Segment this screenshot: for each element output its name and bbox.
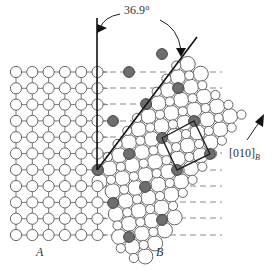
atom-b bbox=[211, 90, 220, 99]
atom-a bbox=[43, 132, 54, 143]
atom-b-large bbox=[196, 89, 211, 104]
atom-a bbox=[92, 197, 103, 208]
atom-a bbox=[10, 181, 21, 192]
atom-b bbox=[181, 130, 190, 139]
atom-b bbox=[185, 71, 194, 80]
atom-a bbox=[76, 213, 87, 224]
atom-a bbox=[43, 181, 54, 192]
atom-a bbox=[43, 164, 54, 175]
atom-a bbox=[27, 197, 38, 208]
coincidence-atom bbox=[157, 49, 168, 60]
atom-b-large bbox=[134, 226, 149, 241]
coincidence-atom bbox=[140, 182, 151, 193]
atom-b bbox=[188, 175, 197, 184]
coincidence-atom bbox=[124, 149, 135, 160]
direction-text: [010] bbox=[229, 146, 255, 160]
coincidence-atom bbox=[124, 232, 135, 243]
lattice-drawing bbox=[0, 0, 275, 273]
atom-b-large bbox=[164, 105, 179, 120]
atom-b bbox=[168, 201, 177, 210]
atom-b-large bbox=[222, 109, 237, 124]
atom-b bbox=[224, 100, 233, 109]
coincidence-atom bbox=[157, 215, 168, 226]
atom-b-large bbox=[183, 79, 198, 94]
atom-b bbox=[129, 253, 138, 262]
angle-label: 36.9° bbox=[124, 3, 150, 18]
atom-a bbox=[76, 99, 87, 110]
atom-b bbox=[146, 205, 155, 214]
atom-a bbox=[92, 213, 103, 224]
atom-a bbox=[10, 213, 21, 224]
atom-b bbox=[165, 178, 174, 187]
atom-b-large bbox=[180, 138, 195, 153]
atom-b bbox=[217, 136, 226, 145]
atom-b bbox=[227, 123, 236, 132]
atom-b-large bbox=[170, 151, 185, 166]
atom-b bbox=[149, 146, 158, 155]
atom-a bbox=[76, 115, 87, 126]
atom-b-large bbox=[115, 171, 130, 186]
atom-b bbox=[172, 143, 181, 152]
atom-a bbox=[59, 99, 70, 110]
atom-a bbox=[59, 164, 70, 175]
atom-b-large bbox=[118, 193, 133, 208]
atom-b-large bbox=[187, 102, 202, 117]
direction-subscript: B bbox=[255, 153, 260, 162]
atom-b bbox=[237, 110, 246, 119]
atom-a bbox=[92, 181, 103, 192]
atom-b bbox=[178, 188, 187, 197]
atom-b-large bbox=[125, 158, 140, 173]
atom-b bbox=[106, 175, 115, 184]
atom-a bbox=[59, 213, 70, 224]
atom-a bbox=[59, 66, 70, 77]
atom-b bbox=[136, 218, 145, 227]
atom-b-large bbox=[151, 96, 166, 111]
atom-b bbox=[133, 195, 142, 204]
atom-b bbox=[165, 97, 174, 106]
atom-b bbox=[168, 120, 177, 129]
atom-a bbox=[76, 132, 87, 143]
atom-b-large bbox=[174, 174, 189, 189]
atom-b-large bbox=[141, 109, 156, 124]
atom-b-large bbox=[138, 167, 153, 182]
atom-b-large bbox=[131, 203, 146, 218]
atom-b bbox=[201, 103, 210, 112]
coincidence-atom bbox=[108, 116, 119, 127]
atom-a bbox=[43, 213, 54, 224]
direction-arrowhead-icon bbox=[255, 114, 264, 127]
atom-b bbox=[116, 244, 125, 253]
atom-a bbox=[43, 83, 54, 94]
atom-b bbox=[139, 240, 148, 249]
atom-a bbox=[43, 66, 54, 77]
atom-a bbox=[10, 229, 21, 240]
atom-a bbox=[76, 148, 87, 159]
atom-b-large bbox=[164, 187, 179, 202]
atom-b bbox=[155, 191, 164, 200]
atom-b bbox=[162, 156, 171, 165]
atom-b bbox=[123, 208, 132, 217]
atom-b-large bbox=[213, 122, 228, 137]
atom-b bbox=[152, 169, 161, 178]
atom-b bbox=[194, 139, 203, 148]
atom-b-large bbox=[193, 66, 208, 81]
atom-b-large bbox=[200, 112, 215, 127]
atom-b bbox=[146, 123, 155, 132]
atom-b-large bbox=[151, 177, 166, 192]
atom-b bbox=[116, 162, 125, 171]
atom-b-large bbox=[121, 216, 136, 231]
atom-a bbox=[76, 229, 87, 240]
atom-a bbox=[10, 115, 21, 126]
atom-a bbox=[27, 99, 38, 110]
angle-arc-right bbox=[160, 20, 181, 50]
atom-b bbox=[119, 185, 128, 194]
direction-label: [010]B bbox=[229, 146, 260, 162]
atom-a bbox=[10, 66, 21, 77]
atom-b bbox=[188, 94, 197, 103]
angle-arc-left bbox=[100, 14, 120, 28]
atom-b-large bbox=[121, 135, 136, 150]
atom-a bbox=[59, 197, 70, 208]
atom-a bbox=[43, 229, 54, 240]
atom-a bbox=[10, 197, 21, 208]
grain-a-label: A bbox=[36, 245, 43, 260]
atom-a bbox=[59, 181, 70, 192]
